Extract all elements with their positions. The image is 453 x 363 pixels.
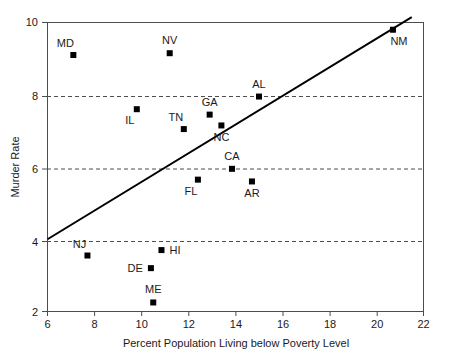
plot-frame [48,23,424,312]
point-marker-de [148,265,154,271]
data-point: ME [145,283,162,305]
point-marker-ar [249,178,255,184]
point-marker-fl [195,177,201,183]
point-label-hi: HI [169,244,180,256]
xtick-label-10: 10 [136,318,148,330]
data-point: NC [213,122,229,143]
point-label-ga: GA [202,96,219,108]
point-label-al: AL [252,78,265,90]
data-point: NJ [73,238,91,259]
point-label-tn: TN [168,111,183,123]
point-label-ar: AR [244,187,259,199]
data-point: HI [158,244,180,256]
point-label-de: DE [128,262,143,274]
trend-line [48,17,412,239]
xtick-label-12: 12 [183,318,195,330]
point-label-il: IL [125,114,134,126]
xtick-label-6: 6 [44,318,50,330]
data-point: GA [202,96,219,118]
y-axis-title: Murder Rate [9,136,21,197]
ytick-label-6: 6 [32,163,38,175]
data-points-layer: MDNVNMILGATNNCALCAFLARNJHIDEME [57,27,408,306]
data-point: DE [128,262,154,274]
xtick-label-16: 16 [277,318,289,330]
point-marker-nv [167,50,173,56]
ytick-label-10: 10 [26,16,38,28]
xtick-label-18: 18 [324,318,336,330]
data-point: AR [244,178,259,199]
data-point: TN [168,111,186,132]
point-marker-me [150,299,156,305]
scatter-chart: 10 8 6 4 2 6 8 10 12 14 16 18 20 22 [0,0,453,363]
x-axis-title: Percent Population Living below Poverty … [123,337,349,349]
point-marker-nj [84,253,90,259]
y-axis: 10 8 6 4 2 [26,16,47,318]
point-label-me: ME [145,283,162,295]
xtick-label-20: 20 [371,318,383,330]
point-marker-md [70,52,76,58]
point-marker-il [134,106,140,112]
point-label-nm: NM [390,35,407,47]
ytick-label-2: 2 [32,306,38,318]
data-point: AL [252,78,265,100]
point-label-nj: NJ [73,238,86,250]
point-marker-tn [181,126,187,132]
xtick-label-14: 14 [230,318,242,330]
data-point: MD [57,37,77,58]
x-axis: 6 8 10 12 14 16 18 20 22 [44,312,429,331]
point-label-md: MD [57,37,74,49]
point-marker-nm [390,27,396,33]
plot-canvas: 10 8 6 4 2 6 8 10 12 14 16 18 20 22 [0,0,453,363]
point-marker-hi [158,247,164,253]
data-point: NM [390,27,408,47]
point-marker-ga [207,112,213,118]
ytick-label-8: 8 [32,90,38,102]
point-marker-al [256,94,262,100]
point-label-nv: NV [162,34,178,46]
gridlines [47,97,424,242]
xtick-label-22: 22 [417,318,429,330]
point-label-nc: NC [213,131,229,143]
trendline-group [48,17,412,239]
ytick-label-4: 4 [32,236,38,248]
data-point: NV [162,34,178,56]
point-marker-ca [229,166,235,172]
xtick-label-8: 8 [92,318,98,330]
data-point: FL [184,177,200,197]
data-point: IL [125,106,140,126]
point-label-fl: FL [184,185,197,197]
point-marker-nc [218,122,224,128]
point-label-ca: CA [224,150,240,162]
